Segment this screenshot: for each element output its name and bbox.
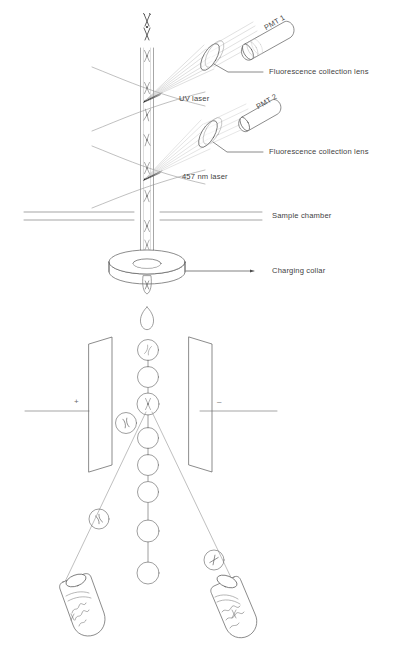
charging-collar-label: Charging collar	[272, 267, 325, 275]
deflected-droplet-left-lower	[89, 509, 109, 529]
lens-bottom	[195, 115, 226, 150]
droplet	[138, 455, 159, 476]
droplet	[137, 520, 159, 542]
chromosomes-in-stream	[144, 50, 150, 250]
lens-bottom-leader	[213, 142, 263, 152]
lens-top	[197, 38, 228, 73]
laser-457-label: 457 nm laser	[182, 173, 228, 181]
lens-bottom-label: Fluorescence collection lens	[269, 148, 369, 156]
fluid-stream	[141, 48, 154, 262]
lens-top-leader	[214, 64, 263, 72]
deflected-droplet-right-lower	[204, 550, 224, 570]
sample-chamber-label: Sample chamber	[272, 212, 332, 220]
tube-right	[211, 573, 257, 638]
flow-cytometer-diagram: PMT 1 PMT 2 Fluorescence collection lens…	[0, 0, 404, 651]
chromosomes-in-droplets	[145, 345, 152, 409]
droplet	[137, 562, 159, 584]
deflection-plates	[89, 337, 212, 472]
sample-chamber-lines	[24, 212, 262, 220]
lens-top-label: Fluorescence collection lens	[269, 68, 369, 76]
droplet	[138, 340, 159, 361]
chromosome-top	[144, 14, 151, 41]
droplet-train	[137, 307, 159, 584]
droplet	[138, 367, 159, 388]
droplet	[138, 482, 159, 503]
uv-laser-label: UV laser	[179, 95, 209, 103]
charging-collar	[109, 250, 185, 284]
plate-negative-label: –	[217, 398, 221, 406]
droplet	[138, 428, 159, 449]
plate-right	[189, 337, 212, 472]
plate-left	[89, 337, 112, 472]
deflected-droplet-left	[116, 413, 137, 434]
droplet-teardrop	[140, 307, 153, 330]
plate-positive-label: +	[74, 398, 79, 406]
diagram-linework	[24, 14, 294, 638]
fluorescence-rays-bottom	[146, 120, 210, 178]
